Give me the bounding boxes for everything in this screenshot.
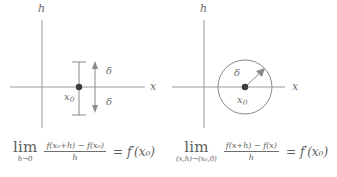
delta-label-down: δ — [106, 97, 112, 107]
delta-radius-label: δ — [234, 68, 240, 78]
equals-sign-right: = — [286, 145, 296, 159]
formula-right: lim (x,h)→(x₀,0) f(x+h) − f(x) h = f′(x₀… — [168, 140, 336, 163]
delta-arrow-up-head — [92, 61, 98, 69]
derivative-expression-left: f′(x₀) — [127, 145, 155, 159]
limit-subscript-right: (x,h)→(x₀,0) — [176, 156, 217, 163]
diagram-right-svg — [168, 0, 337, 135]
panel-left: h x x0 δ δ lim h→0 f(x₀+h) − f(x₀) h = f… — [0, 0, 168, 177]
limit-operator-left: lim — [13, 140, 37, 155]
diagram-left-svg — [0, 0, 168, 135]
fraction-denominator-right: h — [249, 152, 254, 162]
limit-subscript-left: h→0 — [18, 156, 33, 163]
delta-radius-shaft — [245, 72, 261, 87]
fraction-numerator-right: f(x+h) − f(x) — [224, 141, 279, 151]
x-axis-label: x — [292, 81, 298, 92]
figure-canvas: h x x0 δ δ lim h→0 f(x₀+h) − f(x₀) h = f… — [0, 0, 337, 177]
formula-left: lim h→0 f(x₀+h) − f(x₀) h = f′(x₀) — [0, 140, 168, 163]
delta-label-up: δ — [106, 66, 112, 76]
diagram-right-disc: h x δ x0 — [168, 0, 336, 135]
panel-right: h x δ x0 lim (x,h)→(x₀,0) f(x+h) − f(x) … — [168, 0, 336, 177]
derivative-expression-right: f′(x₀) — [300, 145, 328, 159]
fraction-numerator-left: f(x₀+h) − f(x₀) — [44, 141, 106, 151]
fraction-left: f(x₀+h) − f(x₀) h — [44, 141, 106, 162]
fraction-right: f(x+h) − f(x) h — [224, 141, 279, 162]
diagram-left-interval: h x x0 δ δ — [0, 0, 168, 135]
point-x0-marker — [76, 84, 82, 90]
limit-block-right: lim (x,h)→(x₀,0) — [176, 140, 217, 163]
limit-operator-right: lim — [184, 140, 208, 155]
h-axis-label: h — [38, 3, 45, 14]
fraction-denominator-left: h — [73, 152, 78, 162]
point-x0-subscript: 0 — [70, 95, 75, 104]
point-x0-subscript: 0 — [243, 98, 248, 107]
x-axis-label: x — [150, 81, 156, 92]
equals-sign-left: = — [113, 145, 123, 159]
point-x0-label: x0 — [237, 95, 247, 106]
limit-block-left: lim h→0 — [13, 140, 37, 163]
point-x0-marker — [242, 84, 248, 90]
point-x0-label: x0 — [64, 92, 74, 103]
h-axis-label: h — [200, 3, 207, 14]
delta-arrow-down-head — [92, 105, 98, 113]
